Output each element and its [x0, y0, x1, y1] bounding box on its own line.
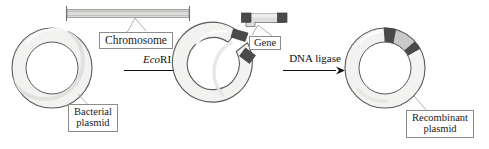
label-dna-ligase: DNA ligase [286, 53, 344, 65]
sticky-end-upper [231, 29, 248, 42]
label-dna-ligase-line1: DNA [289, 52, 312, 64]
gene-fragment [242, 13, 288, 36]
bacterial-plasmid-ring [7, 23, 92, 108]
dna-ligase-arrow [283, 67, 345, 75]
label-bacterial-plasmid: Bacterial plasmid [68, 104, 118, 132]
label-ecori-italic: Eco [143, 53, 160, 65]
label-dna-ligase-line2: ligase [315, 52, 341, 64]
label-ecori: EcoRI [128, 54, 186, 66]
label-recombinant-plasmid-line2: plasmid [412, 123, 468, 134]
label-ecori-roman: RI [160, 53, 171, 65]
chromosome-bar [67, 6, 190, 34]
label-bacterial-plasmid-line2: plasmid [74, 117, 112, 128]
recombinant-plasmid-diagram: Chromosome Gene Bacterial plasmid Recomb… [0, 0, 489, 149]
label-recombinant-plasmid: Recombinant plasmid [406, 110, 474, 138]
label-chromosome-text: Chromosome [105, 34, 167, 46]
label-chromosome: Chromosome [99, 32, 173, 49]
label-gene-text: Gene [254, 37, 276, 48]
recombinant-plasmid-ring [345, 28, 428, 112]
label-bacterial-plasmid-line1: Bacterial [74, 106, 112, 117]
label-recombinant-plasmid-line1: Recombinant [412, 112, 468, 123]
label-gene: Gene [249, 36, 281, 50]
